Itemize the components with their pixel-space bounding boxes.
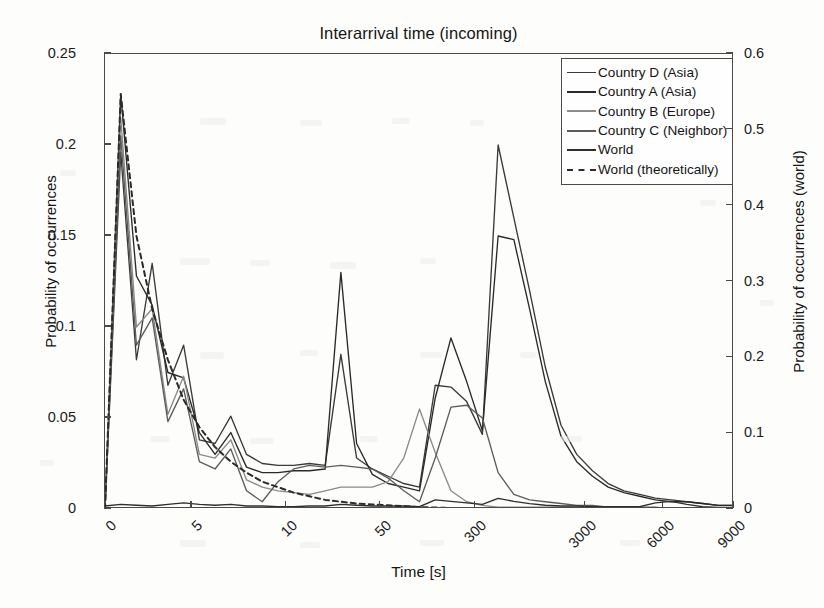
legend-swatch-icon	[567, 126, 596, 136]
legend-swatch-icon	[567, 68, 596, 78]
x-axis-tickmark	[733, 501, 734, 508]
legend-item[interactable]: Country C (Neighbor)	[567, 121, 728, 140]
y-axis-left-tickmark	[104, 416, 111, 417]
legend-item-label: Country B (Europe)	[598, 105, 715, 119]
legend-item[interactable]: World (theoretically)	[567, 160, 728, 179]
series-line	[105, 498, 733, 507]
legend-item-label: Country C (Neighbor)	[598, 124, 727, 138]
legend-swatch-icon	[567, 106, 596, 116]
y-axis-right-tickmark	[726, 507, 733, 508]
y-axis-right-tickmark	[726, 204, 733, 205]
y-axis-left-tickmark	[104, 234, 111, 235]
x-axis-tickmark	[474, 501, 475, 508]
legend-item-label: World (theoretically)	[598, 163, 719, 177]
x-axis-ticks: 051050300300060009000	[0, 514, 824, 570]
y-axis-left-label: Probability of occurrences	[42, 52, 59, 472]
legend-item[interactable]: Country B (Europe)	[567, 102, 728, 121]
y-axis-right-tickmark	[726, 128, 733, 129]
x-axis-tickmark	[662, 501, 663, 508]
y-axis-left-tickmark	[104, 325, 111, 326]
x-axis-tickmark	[190, 501, 191, 508]
legend-item[interactable]: Country D (Asia)	[567, 63, 728, 82]
y-axis-left-tickmark	[104, 507, 111, 508]
legend-item[interactable]: Country A (Asia)	[567, 82, 728, 101]
x-axis-label: Time [s]	[104, 563, 733, 581]
y-axis-right-tickmark	[726, 280, 733, 281]
y-axis-right-tickmark	[726, 52, 733, 53]
x-axis-tickmark	[584, 501, 585, 508]
legend-swatch-icon	[567, 87, 596, 97]
legend: Country D (Asia)Country A (Asia)Country …	[561, 58, 733, 185]
legend-item[interactable]: World	[567, 141, 728, 160]
y-axis-left-tickmark	[104, 143, 111, 144]
y-axis-left-tickmark	[104, 52, 111, 53]
legend-item-label: Country A (Asia)	[598, 85, 696, 99]
legend-item-label: World	[598, 143, 633, 157]
y-axis-right-tickmark	[726, 432, 733, 433]
y-axis-right-label: Probability of occurrences (world)	[790, 32, 807, 492]
figure-canvas: Interarrival time (incoming) 00.050.10.1…	[0, 0, 824, 608]
x-axis-tickmark	[379, 501, 380, 508]
y-axis-right-tickmark	[726, 356, 733, 357]
x-axis-tickmark	[285, 501, 286, 508]
legend-swatch-icon	[567, 145, 596, 155]
legend-item-label: Country D (Asia)	[598, 66, 698, 80]
legend-swatch-icon	[567, 165, 596, 175]
